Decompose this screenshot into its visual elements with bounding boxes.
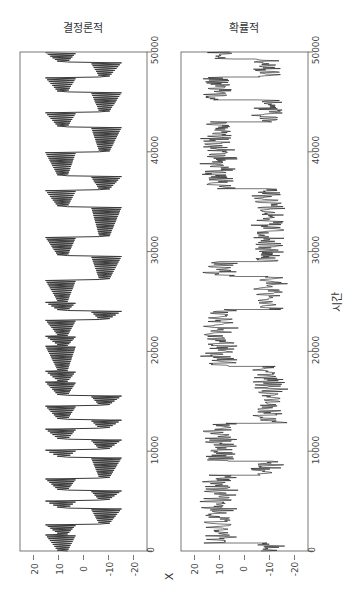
deterministic-panel-title: 결정론적 (63, 19, 103, 35)
y-tick-label: 10000 (311, 436, 321, 465)
y-tick-label: 0 (307, 547, 317, 553)
y-tick-label: 50000 (150, 36, 160, 65)
x-tick-label: 20 (190, 563, 200, 574)
x-tick-label: 10 (215, 563, 225, 574)
stochastic-panel (181, 52, 313, 560)
y-tick-label: 10000 (150, 436, 160, 465)
y-tick-label: 20000 (311, 336, 321, 365)
y-tick-label: 30000 (311, 236, 321, 265)
x-axis-label: X (163, 573, 176, 581)
stochastic-panel-title: 확률적 (229, 19, 259, 35)
x-tick-label: 10 (55, 563, 65, 574)
x-tick-label: 20 (30, 563, 40, 574)
y-tick-label: 50000 (311, 36, 321, 65)
y-axis-label: 시간 (328, 292, 344, 312)
y-tick-label: 40000 (311, 136, 321, 165)
y-tick-label: 0 (146, 547, 156, 553)
x-tick-label: 0 (239, 566, 249, 572)
deterministic-panel (20, 52, 152, 560)
x-tick-label: -10 (265, 562, 275, 577)
x-tick-label: -10 (105, 562, 115, 577)
x-tick-label: 0 (79, 566, 89, 572)
x-tick-label: -20 (290, 562, 300, 577)
figure: 결정론적 확률적 20 10 0 -10 -20 20 10 0 -10 -20… (0, 0, 363, 601)
x-tick-label: -20 (130, 562, 140, 577)
y-tick-label: 40000 (150, 136, 160, 165)
y-tick-label: 30000 (150, 236, 160, 265)
chart-canvas (0, 0, 363, 601)
y-tick-label: 20000 (150, 336, 160, 365)
